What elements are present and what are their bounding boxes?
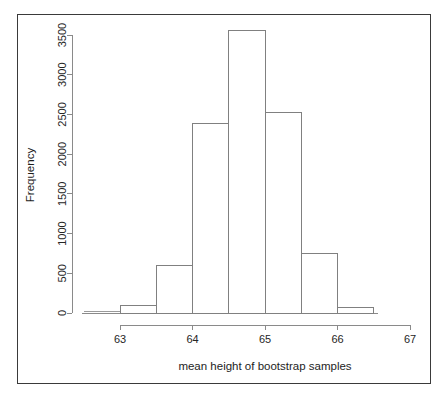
histogram-bars	[84, 30, 374, 313]
x-axis: 6364656667	[114, 325, 416, 345]
histogram-bar	[265, 112, 301, 313]
x-tick-label: 64	[186, 333, 198, 345]
histogram-bar	[156, 265, 192, 313]
histogram-bar	[120, 306, 156, 313]
histogram-bar	[301, 253, 337, 313]
x-tick-label: 65	[259, 333, 271, 345]
x-tick-label: 63	[114, 333, 126, 345]
y-tick-label: 3500	[56, 23, 68, 47]
y-axis-title: Frequency	[24, 148, 36, 203]
y-tick-label: 1500	[56, 182, 68, 206]
x-tick-marks	[120, 325, 410, 330]
y-tick-label: 2500	[56, 102, 68, 126]
x-axis-title: mean height of bootstrap samples	[178, 360, 351, 372]
histogram-plot: 0500100015002000250030003500 6364656667 …	[0, 0, 446, 401]
histogram-bar	[229, 30, 265, 313]
x-tick-labels: 6364656667	[114, 333, 416, 345]
y-tick-labels: 0500100015002000250030003500	[56, 23, 68, 316]
y-axis: 0500100015002000250030003500	[56, 23, 72, 316]
y-tick-label: 2000	[56, 142, 68, 166]
x-tick-label: 66	[331, 333, 343, 345]
x-tick-label: 67	[404, 333, 416, 345]
y-tick-label: 500	[56, 264, 68, 282]
histogram-bar	[338, 307, 374, 313]
y-tick-label: 3000	[56, 62, 68, 86]
y-tick-label: 0	[56, 310, 68, 316]
histogram-bar	[193, 123, 229, 313]
figure-root: 0500100015002000250030003500 6364656667 …	[0, 0, 446, 401]
y-tick-label: 1000	[56, 221, 68, 245]
